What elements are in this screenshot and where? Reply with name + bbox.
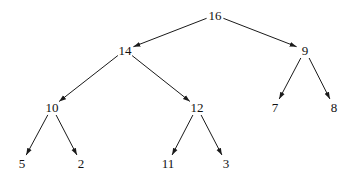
edge-10-to-5 [26, 115, 48, 155]
tree-node-9: 9 [302, 44, 309, 57]
tree-node-7: 7 [272, 101, 279, 114]
tree-node-8: 8 [331, 101, 338, 114]
edge-14-to-10 [59, 56, 118, 102]
tree-node-16: 16 [209, 9, 222, 22]
tree-node-11: 11 [162, 157, 175, 170]
edge-12-to-3 [201, 115, 222, 155]
edge-10-to-2 [56, 115, 77, 155]
edge-16-to-14 [133, 18, 206, 46]
tree-node-12: 12 [191, 101, 204, 114]
edge-9-to-7 [279, 58, 301, 99]
tree-node-14: 14 [119, 44, 132, 57]
tree-node-2: 2 [78, 157, 85, 170]
edge-14-to-12 [132, 56, 190, 102]
tree-node-5: 5 [19, 157, 26, 170]
edge-16-to-9 [223, 18, 296, 46]
tree-node-3: 3 [223, 157, 230, 170]
edge-12-to-11 [172, 115, 193, 155]
tree-edges [0, 0, 355, 177]
tree-diagram: 1614910127852113 [0, 0, 355, 177]
tree-node-10: 10 [46, 101, 59, 114]
edge-9-to-8 [309, 58, 330, 99]
